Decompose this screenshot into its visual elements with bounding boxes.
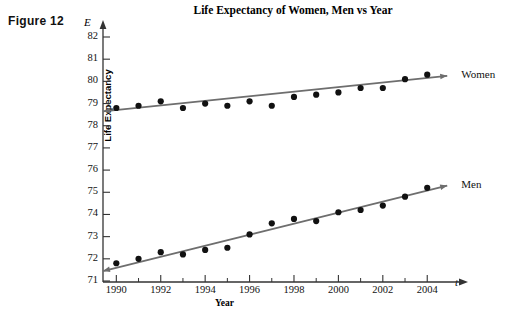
x-tick-label: 1992: [141, 284, 181, 295]
x-tick-label: 1996: [230, 284, 270, 295]
data-point: [313, 218, 319, 224]
data-point: [358, 207, 364, 213]
data-point: [158, 98, 164, 104]
x-tick-label: 2002: [363, 284, 403, 295]
x-axis-ticks: [116, 275, 427, 282]
data-point: [380, 202, 386, 208]
x-axis-arrow-icon: [459, 279, 468, 286]
y-tick-label: 79: [76, 97, 98, 108]
y-tick-label: 72: [76, 252, 98, 263]
y-tick-label: 81: [76, 52, 98, 63]
data-point: [335, 89, 341, 95]
y-tick-label: 73: [76, 230, 98, 241]
data-point: [358, 85, 364, 91]
y-tick-label: 71: [76, 274, 98, 285]
data-point: [313, 92, 319, 98]
y-tick-label: 76: [76, 163, 98, 174]
x-tick-label: 1990: [96, 284, 136, 295]
data-point: [269, 220, 275, 226]
x-tick-label: 2004: [407, 284, 447, 295]
y-tick-label: 75: [76, 185, 98, 196]
data-point: [291, 94, 297, 100]
data-point: [202, 100, 208, 106]
x-tick-label: 1994: [185, 284, 225, 295]
data-point: [113, 105, 119, 111]
data-point: [424, 72, 430, 78]
data-point: [291, 216, 297, 222]
series-label-men: Men: [461, 178, 481, 190]
series-label-women: Women: [461, 68, 495, 80]
y-tick-label: 77: [76, 141, 98, 152]
y-tick-label: 78: [76, 119, 98, 130]
data-point: [269, 103, 275, 109]
data-point: [424, 185, 430, 191]
y-tick-label: 82: [76, 30, 98, 41]
data-point: [202, 247, 208, 253]
data-point: [380, 85, 386, 91]
data-point: [402, 194, 408, 200]
data-point: [224, 103, 230, 109]
data-point: [180, 251, 186, 257]
data-point: [158, 249, 164, 255]
trend-line-men: [103, 186, 447, 271]
data-point: [224, 245, 230, 251]
data-point: [335, 209, 341, 215]
y-axis-ticks: [103, 37, 110, 281]
data-point: [180, 105, 186, 111]
trend-line-women: [103, 76, 447, 111]
y-axis-arrow-icon: [100, 20, 107, 29]
y-tick-label: 80: [76, 74, 98, 85]
chart-plot: [0, 0, 508, 318]
data-point: [402, 76, 408, 82]
data-point: [246, 231, 252, 237]
x-tick-label: 1998: [274, 284, 314, 295]
x-tick-label: 2000: [318, 284, 358, 295]
data-point: [135, 103, 141, 109]
data-points: [113, 72, 430, 267]
data-point: [246, 98, 252, 104]
y-tick-label: 74: [76, 207, 98, 218]
data-point: [135, 256, 141, 262]
axes: [100, 20, 468, 285]
data-point: [113, 260, 119, 266]
trend-lines: [103, 74, 447, 272]
